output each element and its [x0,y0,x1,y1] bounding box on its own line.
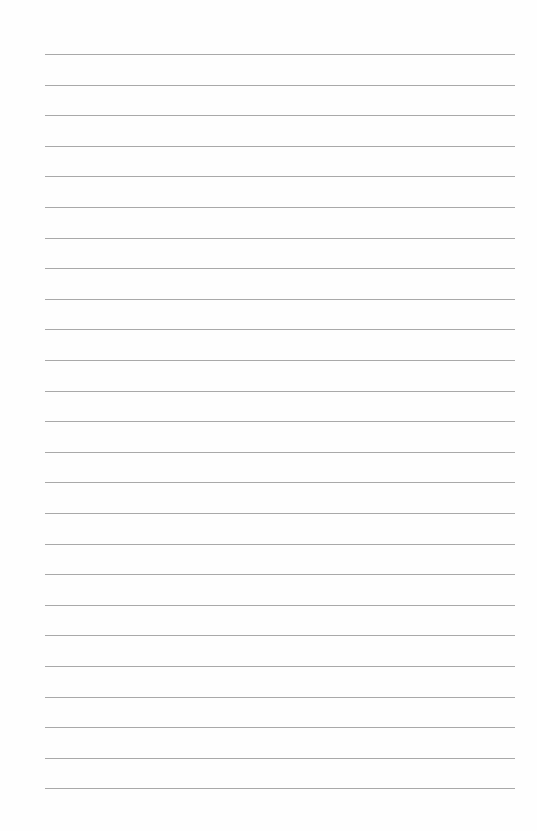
ruled-line [45,482,515,483]
ruled-line [45,268,515,269]
ruled-line [45,299,515,300]
ruled-line [45,666,515,667]
ruled-line [45,176,515,177]
ruled-line [45,391,515,392]
ruled-line [45,146,515,147]
ruled-line [45,697,515,698]
ruled-line [45,207,515,208]
ruled-line [45,574,515,575]
ruled-line [45,605,515,606]
ruled-line [45,54,515,55]
ruled-line [45,758,515,759]
ruled-line [45,788,515,789]
ruled-line [45,360,515,361]
ruled-line [45,115,515,116]
ruled-line [45,85,515,86]
ruled-line [45,452,515,453]
ruled-line [45,329,515,330]
ruled-line [45,727,515,728]
ruled-line [45,421,515,422]
ruled-line [45,238,515,239]
lined-paper-page [0,0,537,831]
ruled-line [45,544,515,545]
ruled-line [45,513,515,514]
ruled-line [45,635,515,636]
